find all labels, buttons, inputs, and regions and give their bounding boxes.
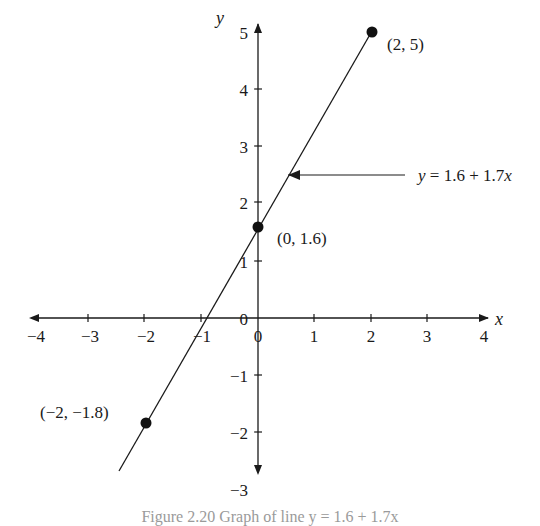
x-tick-label: 4 (480, 327, 489, 346)
equation-annotation: y = 1.6 + 1.7x (288, 166, 512, 185)
y-axis-label: y (214, 8, 224, 28)
y-axis (254, 24, 262, 474)
x-axis (30, 314, 488, 322)
y-tick-label: 2 (240, 194, 249, 213)
equation-label: y = 1.6 + 1.7x (416, 166, 512, 185)
x-tick-label: −2 (137, 327, 155, 346)
point-label-2-5: (2, 5) (387, 35, 424, 54)
y-tick-label: 1 (240, 253, 249, 272)
x-tick-label: 3 (423, 327, 432, 346)
y-tick-label: 5 (240, 24, 249, 43)
annotation-arrow-icon (288, 170, 300, 180)
data-points (141, 27, 378, 429)
y-tick-label: 4 (240, 81, 249, 100)
figure-caption: Figure 2.20 Graph of line y = 1.6 + 1.7x (0, 508, 540, 526)
y-tick-label: −1 (230, 367, 248, 386)
point-label-neg2-neg1.8: (−2, −1.8) (40, 403, 109, 422)
point-label-0-1.6: (0, 1.6) (277, 229, 327, 248)
x-tick-label: 2 (367, 327, 376, 346)
x-tick-label: −4 (27, 327, 46, 346)
y-tick-label: 3 (240, 138, 249, 157)
x-tick-labels: −4 −3 −2 −1 0 1 2 3 4 (27, 327, 489, 346)
point-neg2-neg1.8 (141, 418, 152, 429)
x-axis-label: x (494, 309, 503, 329)
y-tick-label: −2 (230, 424, 248, 443)
point-0-1.6 (253, 222, 264, 233)
x-tick-label: −3 (81, 327, 99, 346)
x-tick-label: 0 (254, 327, 263, 346)
x-tick-label: 1 (310, 327, 319, 346)
y-tick-label: −3 (230, 481, 248, 500)
point-2-5 (367, 27, 378, 38)
y-tick-label-origin: 0 (240, 310, 249, 329)
